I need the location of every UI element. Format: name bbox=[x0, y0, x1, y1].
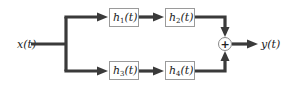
block-diagram: x(t) h1(t) h2(t) h3(t) h4(t) + bbox=[0, 0, 295, 90]
svg-text:h2(t): h2(t) bbox=[169, 11, 194, 25]
block-h3: h3(t) bbox=[110, 62, 139, 80]
arrow-head-icon bbox=[97, 13, 108, 22]
arrow-head-icon bbox=[247, 40, 258, 49]
svg-text:h1(t): h1(t) bbox=[113, 11, 138, 25]
plus-icon: + bbox=[220, 38, 229, 51]
arrow-head-icon bbox=[153, 67, 164, 76]
svg-text:h4(t): h4(t) bbox=[169, 64, 194, 78]
block-h2: h2(t) bbox=[166, 9, 195, 27]
svg-text:h3(t): h3(t) bbox=[113, 64, 138, 78]
arrow-head-icon bbox=[221, 51, 230, 61]
summing-junction: + bbox=[219, 38, 232, 52]
block-h4: h4(t) bbox=[166, 62, 195, 80]
block-h1: h1(t) bbox=[110, 9, 139, 27]
input-wire bbox=[31, 13, 108, 76]
arrow-head-icon bbox=[97, 67, 108, 76]
arrow-head-icon bbox=[221, 27, 230, 37]
output-label: y(t) bbox=[260, 38, 280, 51]
arrow-head-icon bbox=[153, 13, 164, 22]
